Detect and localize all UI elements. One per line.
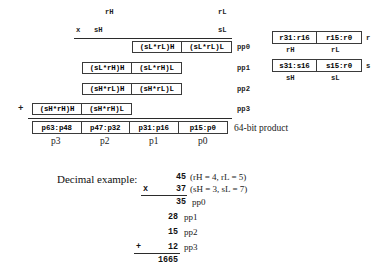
decimal-row-value-pp1: 28 (148, 212, 178, 222)
pp1-cell-high: (sL*rH)H (83, 63, 132, 73)
decimal-multiplicand-note: (rH = 4, rL = 5) (190, 172, 246, 182)
decimal-total: 1665 (140, 255, 178, 265)
register-s-cell-low: s15:r0 (317, 60, 361, 71)
partial-product-row-pp3: (sH*rH)H (sH*rH)L (32, 103, 132, 115)
decimal-row-value-pp3: 12 (148, 242, 178, 252)
decimal-row-label-pp3: pp3 (184, 242, 198, 252)
product-cell-p3: p63:p48 (33, 122, 82, 133)
pp0-label: pp0 (237, 43, 250, 51)
product-cell-p2: p47:p32 (82, 122, 131, 133)
product-label: 64-bit product (234, 123, 288, 133)
partial-product-row-pp1: (sL*rH)H (sL*rH)L (82, 62, 182, 74)
register-s-cell-high: s31:s16 (273, 60, 317, 71)
operand-label-rh-top: rH (105, 8, 114, 16)
multiply-sign: x (76, 26, 80, 34)
decimal-multiplier-rule (141, 195, 187, 196)
operand-label-sl-top: sL (218, 26, 227, 34)
decimal-multiplier: 37 (156, 184, 186, 194)
register-r-sublabel-rl: rL (331, 46, 340, 54)
pp3-cell-low: (sH*rH)L (82, 104, 131, 114)
multiplication-diagram: rH rL x sH sL (sL*rL)H (sL*rL)L pp0 (sL*… (0, 0, 385, 273)
partial-product-row-pp2: (sH*rL)H (sH*rL)L (82, 83, 182, 95)
pp2-cell-low: (sH*rL)L (132, 84, 181, 94)
pp3-cell-high: (sH*rH)H (33, 104, 82, 114)
operand-label-rl-top: rL (218, 8, 227, 16)
partial-product-row-pp0: (sL*rL)H (sL*rL)L (132, 41, 232, 53)
product-sublabel-p2: p2 (100, 136, 110, 146)
decimal-multiplier-note: (sH = 3, sL = 7) (190, 184, 247, 194)
register-r-row: r31:r16 r15:r0 (272, 31, 362, 44)
product-cell-p1: p31:p16 (130, 122, 179, 133)
product-sublabel-p1: p1 (149, 136, 159, 146)
register-s-sublabel-sh: sH (286, 74, 295, 82)
decimal-row-label-pp1: pp1 (184, 212, 198, 222)
product-sublabel-p3: p3 (51, 136, 61, 146)
product-row: p63:p48 p47:p32 p31:p16 p15:p0 (32, 121, 228, 134)
register-r-sublabel-rh: rH (286, 46, 295, 54)
decimal-total-rule (134, 253, 180, 254)
decimal-multiplier-sign: x (143, 184, 148, 194)
register-s-row: s31:s16 s15:r0 (272, 59, 362, 72)
register-s-sublabel-sl: sL (331, 74, 340, 82)
decimal-multiplicand: 45 (156, 172, 186, 182)
register-r-cell-low: r15:r0 (317, 32, 361, 43)
decimal-row-value-pp2: 15 (148, 227, 178, 237)
plus-sign: + (18, 104, 23, 114)
pp1-label: pp1 (237, 64, 250, 72)
operand-label-sh-top: sH (94, 26, 103, 34)
pp2-label: pp2 (237, 85, 250, 93)
multiplier-rule (74, 38, 232, 39)
pp2-cell-high: (sH*rL)H (83, 84, 132, 94)
pp1-cell-low: (sL*rH)L (132, 63, 181, 73)
decimal-example-title: Decimal example: (57, 173, 137, 185)
register-r-cell-high: r31:r16 (273, 32, 317, 43)
decimal-row-label-pp2: pp2 (184, 227, 198, 237)
product-cell-p0: p15:p0 (179, 122, 227, 133)
pp0-cell-high: (sL*rL)H (133, 42, 182, 52)
sum-rule (28, 118, 232, 119)
register-s-name: s (366, 62, 370, 70)
pp3-label: pp3 (237, 105, 250, 113)
product-sublabel-p0: p0 (198, 136, 208, 146)
decimal-row-label-pp0: pp0 (192, 197, 206, 207)
decimal-row-sign-pp3: + (136, 242, 141, 252)
decimal-row-value-pp0: 35 (156, 197, 186, 207)
pp0-cell-low: (sL*rL)L (182, 42, 231, 52)
register-r-name: r (366, 34, 370, 42)
